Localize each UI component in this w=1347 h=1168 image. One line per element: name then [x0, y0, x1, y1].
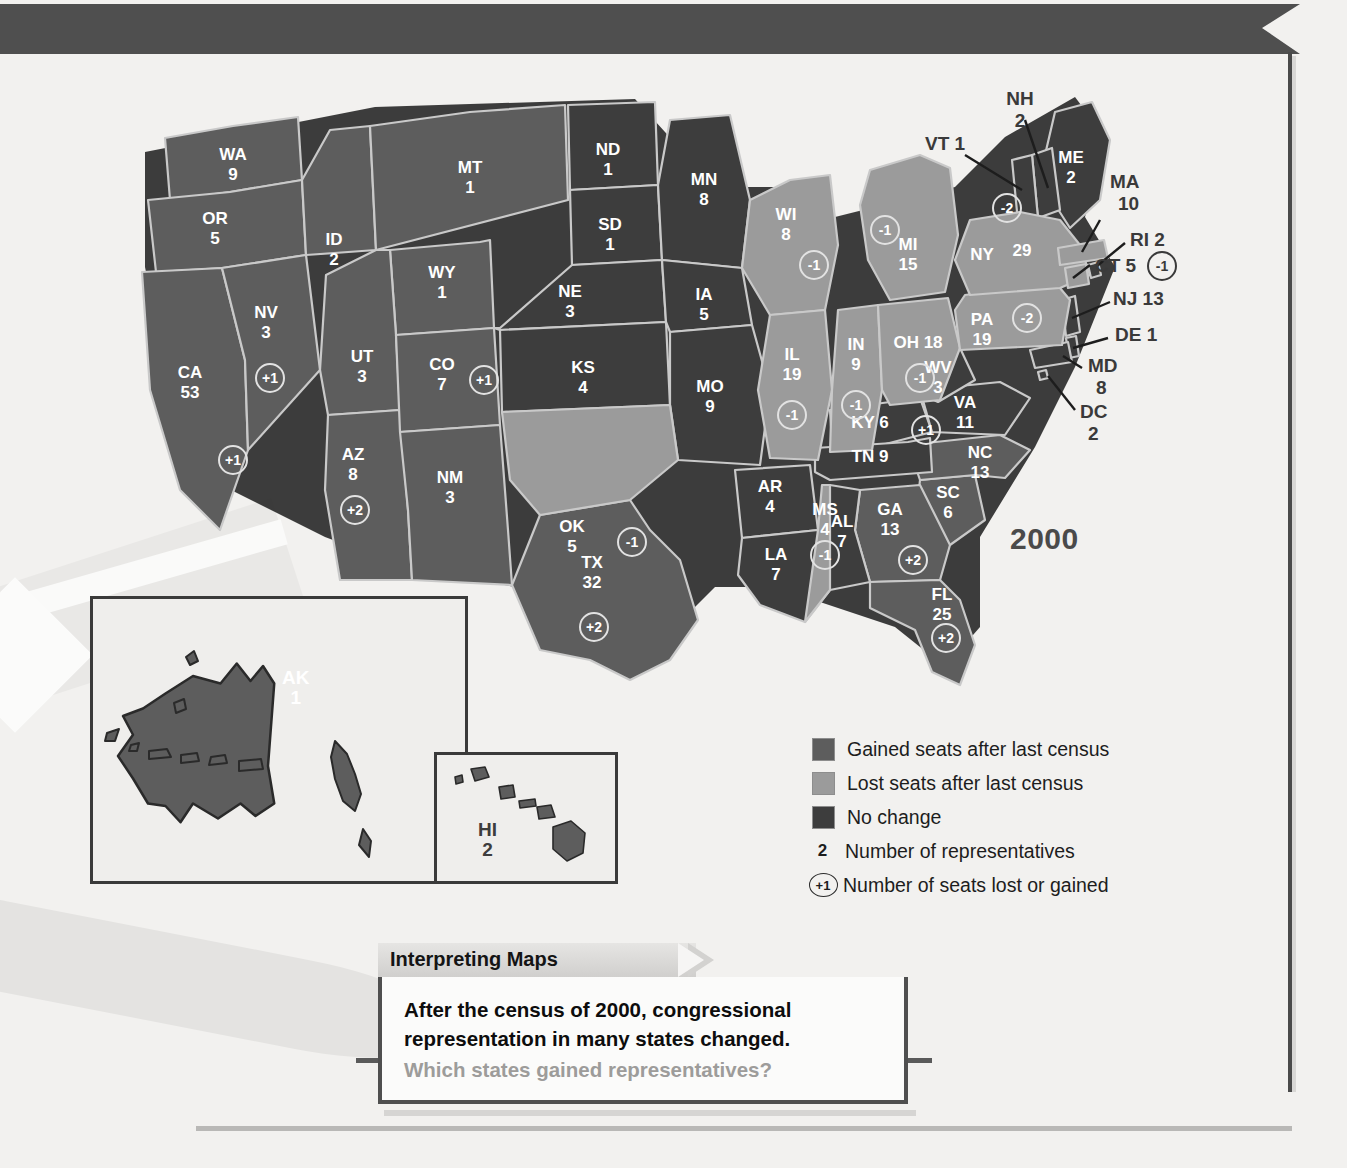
svg-text:LA: LA	[765, 545, 788, 564]
state-NM	[400, 425, 512, 585]
svg-text:UT: UT	[351, 347, 374, 366]
svg-text:OR: OR	[202, 209, 228, 228]
svg-text:NJ 13: NJ 13	[1113, 288, 1164, 309]
caption-tab: Interpreting Maps	[378, 943, 696, 977]
svg-text:4: 4	[765, 497, 775, 516]
svg-text:AR: AR	[758, 477, 783, 496]
svg-text:4: 4	[820, 520, 830, 539]
legend-item-seatchange: +1 Number of seats lost or gained	[812, 870, 1272, 900]
legend-item-lost: Lost seats after last census	[812, 768, 1272, 798]
svg-text:1: 1	[465, 178, 474, 197]
svg-text:TX: TX	[581, 553, 603, 572]
hawaii-inset	[434, 752, 618, 884]
svg-text:NM: NM	[437, 468, 463, 487]
legend-item-nochange: No change	[812, 802, 1272, 832]
svg-text:VT 1: VT 1	[925, 133, 966, 154]
svg-text:3: 3	[565, 302, 574, 321]
svg-text:ME: ME	[1058, 148, 1084, 167]
svg-text:KS: KS	[571, 358, 595, 377]
svg-text:19: 19	[783, 365, 802, 384]
svg-text:WY: WY	[428, 263, 456, 282]
hawaii-code: HI	[478, 820, 497, 840]
svg-text:6: 6	[943, 503, 952, 522]
chip-CT: -1	[1148, 252, 1176, 280]
svg-text:5: 5	[210, 229, 219, 248]
svg-text:MA: MA	[1110, 171, 1140, 192]
svg-text:5: 5	[699, 305, 708, 324]
aleutian-1	[105, 729, 119, 741]
svg-text:-1: -1	[786, 407, 799, 423]
svg-text:IN: IN	[848, 335, 865, 354]
svg-text:29: 29	[1013, 241, 1032, 260]
svg-text:2: 2	[1015, 110, 1026, 131]
svg-text:TN 9: TN 9	[852, 447, 889, 466]
legend-item-representatives: 2 Number of representatives	[812, 836, 1272, 866]
svg-text:RI 2: RI 2	[1130, 229, 1165, 250]
svg-text:3: 3	[261, 323, 270, 342]
svg-text:AZ: AZ	[342, 445, 365, 464]
svg-text:WI: WI	[776, 205, 797, 224]
aleutian-4	[181, 753, 199, 763]
svg-text:MI: MI	[899, 235, 918, 254]
page-right-rule	[1288, 52, 1292, 1092]
svg-text:NC: NC	[968, 443, 993, 462]
svg-text:MO: MO	[696, 377, 723, 396]
svg-text:-2: -2	[1001, 200, 1014, 216]
svg-text:SC: SC	[936, 483, 960, 502]
caption-tab-title: Interpreting Maps	[390, 948, 558, 971]
svg-text:ND: ND	[596, 140, 621, 159]
svg-text:10: 10	[1118, 193, 1139, 214]
alaska-label: AK 1	[282, 668, 309, 708]
alaska-code: AK	[282, 668, 309, 688]
hawaii-kauai	[471, 767, 489, 781]
legend-chip-icon: +1	[808, 874, 838, 896]
svg-text:OK: OK	[559, 517, 585, 536]
alaska-inset	[90, 596, 468, 884]
hawaii-reps: 2	[478, 840, 497, 860]
svg-text:NV: NV	[254, 303, 278, 322]
map-year-label: 2000	[1010, 522, 1079, 556]
svg-text:NY: NY	[970, 245, 994, 264]
legend-chip-marker: +1	[809, 873, 838, 897]
aleutian-2	[129, 743, 139, 751]
svg-text:7: 7	[437, 375, 446, 394]
svg-text:2: 2	[1088, 423, 1099, 444]
svg-text:+2: +2	[938, 630, 954, 646]
state-DC	[1038, 370, 1048, 380]
hawaii-oahu	[499, 785, 515, 799]
interpreting-maps-caption: Interpreting Maps After the census of 20…	[378, 943, 908, 1104]
svg-text:AL: AL	[831, 512, 854, 531]
svg-text:8: 8	[781, 225, 790, 244]
svg-text:1: 1	[437, 283, 446, 302]
hawaii-niihau	[455, 775, 463, 784]
legend-marker-number: 2	[812, 841, 833, 861]
caption-line-2: representation in many states changed.	[404, 1024, 884, 1053]
alaska-tail-island	[359, 829, 371, 857]
svg-text:13: 13	[881, 520, 900, 539]
svg-text:CT 5: CT 5	[1095, 255, 1137, 276]
aleutian-5	[209, 755, 227, 765]
svg-text:GA: GA	[877, 500, 903, 519]
svg-text:IL: IL	[784, 345, 799, 364]
legend-swatch-gained-icon	[812, 738, 835, 761]
caption-shadow	[384, 1110, 916, 1116]
svg-text:DC: DC	[1080, 401, 1108, 422]
svg-text:3: 3	[357, 367, 366, 386]
state-IL	[758, 310, 832, 460]
legend-label-seatchange: Number of seats lost or gained	[843, 874, 1109, 897]
svg-text:1: 1	[605, 235, 614, 254]
svg-text:-1: -1	[914, 370, 927, 386]
svg-text:2: 2	[329, 250, 338, 269]
legend-item-gained: Gained seats after last census	[812, 734, 1272, 764]
svg-text:FL: FL	[932, 585, 953, 604]
legend-label-representatives: Number of representatives	[845, 840, 1075, 863]
svg-text:-1: -1	[626, 534, 639, 550]
state-WI	[742, 175, 838, 315]
svg-text:+1: +1	[476, 372, 492, 388]
legend-label-lost: Lost seats after last census	[847, 772, 1083, 795]
svg-text:IA: IA	[696, 285, 713, 304]
header-banner	[0, 4, 1300, 54]
caption-right-stub	[906, 1058, 932, 1063]
page-bottom-rule	[196, 1126, 1292, 1131]
legend-label-nochange: No change	[847, 806, 941, 829]
